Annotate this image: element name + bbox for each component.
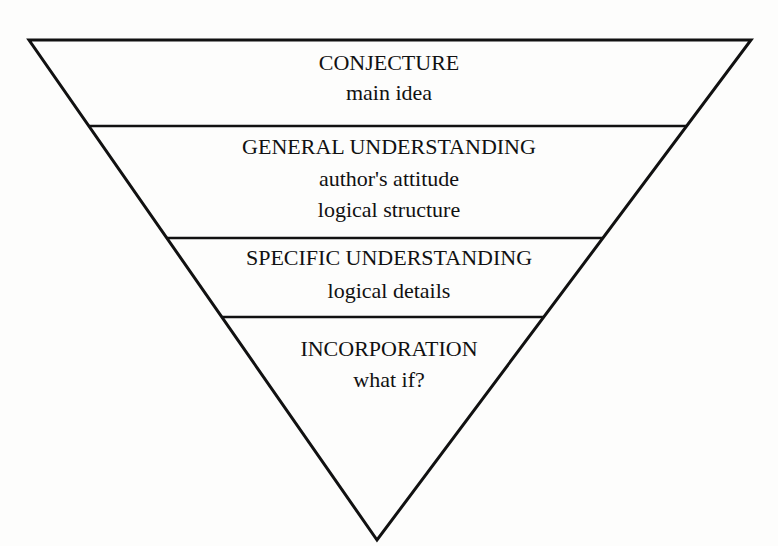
level-2-line-1: author's attitude xyxy=(0,168,778,190)
level-2-title: GENERAL UNDERSTANDING xyxy=(0,136,778,158)
level-1-line-1: main idea xyxy=(0,82,778,104)
level-3-line-1: logical details xyxy=(0,280,778,302)
level-2-line-2: logical structure xyxy=(0,199,778,221)
level-4-line-1: what if? xyxy=(0,369,778,391)
level-1-title: CONJECTURE xyxy=(0,52,778,74)
level-3-title: SPECIFIC UNDERSTANDING xyxy=(0,247,778,269)
level-4-title: INCORPORATION xyxy=(0,338,778,360)
